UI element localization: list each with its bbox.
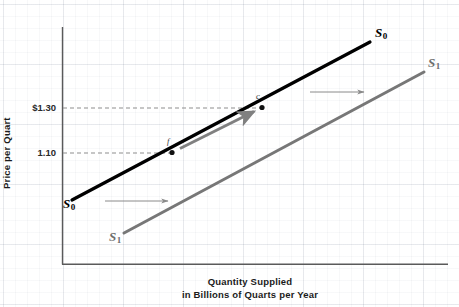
curve-label-s0-lower-subscript: 0 (70, 202, 75, 212)
movement-along-curve-arrow (180, 112, 254, 149)
y-tick-label-110: 1.10 (8, 147, 56, 158)
point-label-c: c (256, 91, 260, 101)
curve-label-s1-upper: S1 (428, 55, 440, 71)
curve-label-s1-lower-subscript: 1 (116, 235, 121, 245)
data-point-c (259, 105, 264, 110)
plot-area-svg (0, 0, 459, 307)
y-axis-title: Price per Quart (1, 117, 12, 189)
supply-curve-figure: $1.30 1.10 Price per Quart Quantity Supp… (0, 0, 459, 307)
x-axis-title-line2: in Billions of Quarts per Year (155, 288, 345, 301)
supply-curve-s0 (72, 42, 370, 200)
curve-label-s0-upper: S0 (375, 25, 387, 41)
curve-label-s1-upper-subscript: 1 (435, 61, 440, 71)
curve-label-s1-lower: S1 (109, 229, 121, 245)
y-tick-label-130: $1.30 (8, 102, 56, 113)
x-axis-title-line1: Quantity Supplied (155, 275, 345, 288)
data-point-f (169, 150, 174, 155)
point-label-f: f (167, 136, 169, 146)
x-axis-title: Quantity Supplied in Billions of Quarts … (155, 275, 345, 301)
curve-label-s0-lower: S0 (63, 196, 75, 212)
curve-label-s0-upper-subscript: 0 (382, 31, 387, 41)
